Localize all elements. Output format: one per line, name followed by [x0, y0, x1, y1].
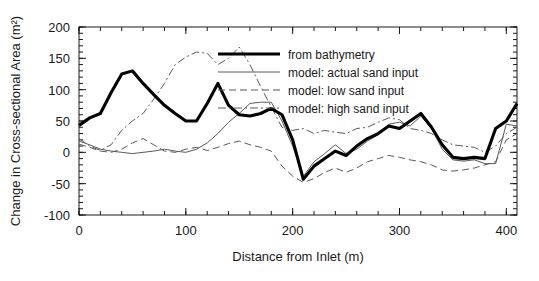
x-axis-title: Distance from Inlet (m) — [232, 249, 363, 264]
legend-label-3: model: low sand input — [288, 84, 405, 98]
y-tick-label: -100 — [44, 208, 70, 223]
y-tick-label: -50 — [51, 177, 70, 192]
x-tick-label: 100 — [175, 223, 197, 238]
x-tick-label: 400 — [495, 223, 517, 238]
legend-label-2: model: actual sand input — [288, 66, 419, 80]
legend-label-4: model: high sand input — [288, 102, 409, 116]
y-tick-label: 100 — [48, 83, 70, 98]
x-tick-label: 300 — [389, 223, 411, 238]
legend-label-1: from bathymetry — [288, 48, 375, 62]
chart-figure: 0100200300400 -100-50050100150200 Distan… — [0, 0, 539, 281]
line-chart: 0100200300400 -100-50050100150200 Distan… — [0, 0, 539, 281]
y-tick-label: 200 — [48, 20, 70, 35]
y-tick-label: 50 — [56, 114, 70, 129]
y-tick-labels: -100-50050100150200 — [44, 20, 70, 223]
series-line-model-high-sand-input — [79, 47, 517, 152]
x-tick-label: 200 — [282, 223, 304, 238]
x-tick-labels: 0100200300400 — [75, 223, 517, 238]
y-axis-title: Change in Cross-sectional Area (m²) — [8, 16, 23, 226]
y-tick-label: 0 — [63, 145, 70, 160]
x-tick-label: 0 — [75, 223, 82, 238]
y-tick-label: 150 — [48, 51, 70, 66]
